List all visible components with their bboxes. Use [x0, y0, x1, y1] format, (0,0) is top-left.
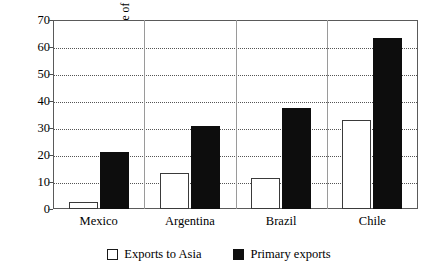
- x-axis-labels: MexicoArgentinaBrazilChile: [53, 212, 418, 232]
- legend-swatch-light: [107, 249, 118, 260]
- y-tick-label: 10: [4, 176, 50, 188]
- plot-area: [53, 20, 418, 209]
- gridline: [54, 102, 417, 103]
- y-tick-label: 60: [4, 41, 50, 53]
- gridline: [54, 156, 417, 157]
- y-tick-mark: [48, 209, 53, 210]
- legend-label: Primary exports: [250, 246, 330, 262]
- y-tick-label: 70: [4, 14, 50, 26]
- y-tick-label: 30: [4, 122, 50, 134]
- x-label-brazil: Brazil: [266, 212, 297, 230]
- legend-swatch-dark: [233, 249, 244, 260]
- legend-item-exports-to-asia[interactable]: Exports to Asia: [107, 246, 201, 262]
- x-label-argentina: Argentina: [165, 212, 215, 230]
- gridline: [54, 129, 417, 130]
- chart-legend: Exports to AsiaPrimary exports: [0, 246, 438, 262]
- x-label-chile: Chile: [359, 212, 386, 230]
- legend-label: Exports to Asia: [124, 246, 201, 262]
- x-label-mexico: Mexico: [80, 212, 118, 230]
- y-tick-label: 0: [4, 203, 50, 215]
- y-axis-ticks: 010203040506070: [0, 20, 50, 209]
- bar-chart: Percentage of total exports 010203040506…: [0, 0, 438, 280]
- y-tick-label: 20: [4, 149, 50, 161]
- gridline: [54, 183, 417, 184]
- gridline: [54, 75, 417, 76]
- gridline: [54, 48, 417, 49]
- y-tick-label: 50: [4, 68, 50, 80]
- legend-item-primary-exports[interactable]: Primary exports: [233, 246, 330, 262]
- y-tick-label: 40: [4, 95, 50, 107]
